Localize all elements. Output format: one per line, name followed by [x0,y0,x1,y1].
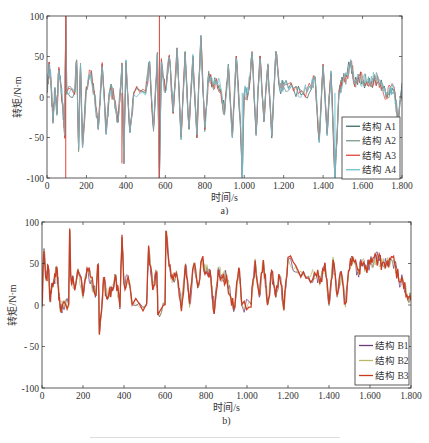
x-tick-label: 400 [117,391,132,401]
subfigure-label: b) [222,415,230,427]
series-line-3 [42,229,411,335]
x-tick-label: 0 [45,181,50,191]
x-tick-label: 600 [158,181,173,191]
x-tick-label: 0 [40,391,45,401]
x-tick-label: 1.000 [236,391,258,401]
plot-area [42,229,411,335]
legend-label: 结构 A2 [362,135,396,146]
y-tick-label: 0 [39,93,44,103]
legend: 结构 B1结构 B2结构 B3 [355,336,409,385]
legend-label: 结构 A4 [362,164,396,175]
y-tick-label: -100 [27,174,45,184]
x-axis-label: 时间/s [211,191,238,203]
y-tick-label: -100 [22,384,40,394]
y-tick-label: 100 [25,218,40,228]
x-tick-label: 1.600 [352,181,374,191]
legend-label: 结构 A3 [362,150,396,161]
x-tick-label: 800 [199,391,214,401]
x-axis-label: 时间/s [213,401,240,413]
subfigure-label: a) [221,205,229,215]
legend-label: 结构 A1 [362,121,396,132]
x-tick-label: 1.200 [273,181,295,191]
figure-caption-line [90,437,340,438]
chart-b-svg: 02004006008001.0001.2001.4001.6001.80010… [0,215,429,443]
legend-label: 结构 B2 [375,355,409,366]
y-tick-label: - 50 [24,342,39,352]
x-tick-label: 1.400 [318,391,340,401]
x-tick-label: 800 [198,181,213,191]
y-axis-label: 转矩/N·m [11,76,23,117]
legend-label: 结构 B1 [375,340,409,351]
x-tick-label: 1.800 [391,181,413,191]
chart-a-svg: 02004006008001.0001.2001.4001.6001.80010… [0,0,429,215]
x-tick-label: 1.600 [359,391,381,401]
x-tick-label: 1.800 [400,391,422,401]
legend: 结构 A1结构 A2结构 A3结构 A4 [342,117,400,179]
legend-label: 结构 B3 [375,370,409,381]
chart-b: 02004006008001.0001.2001.4001.6001.80010… [0,215,429,443]
y-tick-label: 0 [34,301,39,311]
x-tick-label: 200 [79,181,94,191]
x-tick-label: 200 [76,391,91,401]
x-tick-label: 1.400 [312,181,334,191]
y-tick-label: 100 [30,12,45,22]
x-tick-label: 600 [158,391,173,401]
y-tick-label: - 50 [29,133,44,143]
x-tick-label: 400 [119,181,134,191]
chart-a: 02004006008001.0001.2001.4001.6001.80010… [0,0,429,215]
x-tick-label: 1.200 [277,391,299,401]
x-tick-label: 1.000 [234,181,256,191]
y-tick-label: 50 [35,52,45,62]
y-axis-label: 转矩/N·m [6,284,18,325]
y-tick-label: 50 [30,259,40,269]
